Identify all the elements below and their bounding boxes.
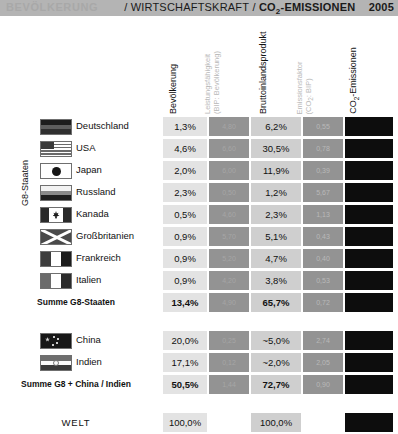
cell-performance: 0,25 <box>209 331 249 350</box>
cell-factor: 0,39 <box>303 161 343 180</box>
title-wirtschaftskraft: WIRTSCHAFTSKRAFT <box>131 1 250 13</box>
cell-gdp: 65,7% <box>251 293 301 312</box>
country-name: Deutschland <box>76 120 129 131</box>
cell-performance: 5,20 <box>209 249 249 268</box>
country-name: Russland <box>76 186 116 197</box>
cell-population: 4,6% <box>163 139 207 158</box>
cell-gdp: 30,5% <box>251 139 301 158</box>
cell-emissions <box>345 353 393 372</box>
flag-icon-deutschland <box>40 119 72 135</box>
flag-icon-china <box>40 333 72 349</box>
table-row[interactable]: China 20,0% 0,25 ~5,0% 2,74 <box>0 330 398 352</box>
country-name: Großbritanien <box>76 230 134 241</box>
table-row-summary-g8[interactable]: Summe G8-Staaten 13,4% 4,90 65,7% 0,72 <box>0 292 398 314</box>
table-row-summary-all[interactable]: Summe G8 + China / Indien 50,5% 1,44 72,… <box>0 374 398 396</box>
cell-factor: 5,67 <box>303 183 343 202</box>
cell-population: 100,0% <box>163 413 207 432</box>
page-title: / WIRTSCHAFTSKRAFT / CO2-EMISSIONEN 2005 <box>124 1 394 16</box>
cell-emissions <box>345 293 393 312</box>
header-year: 2005 <box>369 1 394 13</box>
flag-icon-russland <box>40 185 72 201</box>
cell-gdp: 6,2% <box>251 117 301 136</box>
cell-emissions <box>345 227 393 246</box>
cell-gdp: 100,0% <box>251 413 301 432</box>
cell-performance: 5,70 <box>209 227 249 246</box>
cell-population: 2,3% <box>163 183 207 202</box>
column-header-emissions: CO2-Emissionen <box>362 24 376 114</box>
data-table: Deutschland 1,3% 4,80 6,2% 0,55 USA 4,6%… <box>0 116 398 434</box>
country-name: Italien <box>76 274 101 285</box>
table-row[interactable]: Frankreich 0,9% 5,20 4,7% 0,40 <box>0 248 398 270</box>
flag-icon-indien <box>40 355 72 371</box>
cell-factor: 2,74 <box>303 331 343 350</box>
cell-emissions <box>345 375 393 394</box>
cell-gdp: 11,9% <box>251 161 301 180</box>
cell-gdp: 3,8% <box>251 271 301 290</box>
column-header-population: Bevölkerung <box>178 24 192 114</box>
cell-emissions <box>345 117 393 136</box>
column-header-factor-label: Emissionsfaktor(CO2: BIP) <box>295 61 316 114</box>
cell-factor: 0,55 <box>303 117 343 136</box>
cell-gdp: ~2,0% <box>251 353 301 372</box>
column-header-factor: Emissionsfaktor(CO2: BIP) <box>315 24 329 114</box>
flag-icon-italien <box>40 273 72 289</box>
flag-icon-kanada <box>40 207 72 223</box>
cell-population: 0,9% <box>163 249 207 268</box>
cell-population: 17,1% <box>163 353 207 372</box>
country-name: Indien <box>76 356 102 367</box>
cell-performance: 0,12 <box>209 353 249 372</box>
row-spacer <box>0 396 398 412</box>
cell-factor: 0,40 <box>303 249 343 268</box>
cell-population: 20,0% <box>163 331 207 350</box>
cell-gdp: 2,3% <box>251 205 301 224</box>
cell-performance: 4,60 <box>209 205 249 224</box>
cell-gdp: 1,2% <box>251 183 301 202</box>
country-name: Kanada <box>76 208 109 219</box>
cell-factor: 0,72 <box>303 293 343 312</box>
table-row[interactable]: Russland 2,3% 0,50 1,2% 5,67 <box>0 182 398 204</box>
cell-factor: 0,78 <box>303 139 343 158</box>
table-row[interactable]: Italien 0,9% 4,20 3,8% 0,53 <box>0 270 398 292</box>
country-name: Frankreich <box>76 252 121 263</box>
cell-gdp: 5,1% <box>251 227 301 246</box>
cell-emissions <box>345 271 393 290</box>
cell-factor: 0,53 <box>303 271 343 290</box>
flag-icon-japan <box>40 163 72 179</box>
summary-label-g8: Summe G8-Staaten <box>0 297 152 307</box>
cell-population: 13,4% <box>163 293 207 312</box>
table-row[interactable]: Großbritanien 0,9% 5,70 5,1% 0,43 <box>0 226 398 248</box>
column-header-emissions-label: CO2-Emissionen <box>348 47 362 114</box>
country-name: USA <box>76 142 96 153</box>
header-faded-title: BEVÖLKERUNG <box>6 1 98 13</box>
cell-performance: 6,60 <box>209 139 249 158</box>
cell-performance: 4,20 <box>209 271 249 290</box>
cell-emissions <box>345 161 393 180</box>
title-co2: CO2-EMISSIONEN <box>259 1 356 13</box>
flag-icon-usa <box>40 141 72 157</box>
table-row[interactable]: USA 4,6% 6,60 30,5% 0,78 <box>0 138 398 160</box>
title-separator-1: / <box>124 1 127 13</box>
cell-performance: 6,00 <box>209 161 249 180</box>
cell-emissions <box>345 331 393 350</box>
cell-factor: 2,05 <box>303 353 343 372</box>
cell-performance: 0,50 <box>209 183 249 202</box>
table-row-world[interactable]: WELT 100,0% 100,0% <box>0 412 398 434</box>
cell-emissions <box>345 249 393 268</box>
cell-population: 0,5% <box>163 205 207 224</box>
table-row[interactable]: Indien 17,1% 0,12 ~2,0% 2,05 <box>0 352 398 374</box>
table-row[interactable]: Japan 2,0% 6,00 11,9% 0,39 <box>0 160 398 182</box>
cell-population: 50,5% <box>163 375 207 394</box>
row-spacer <box>0 314 398 330</box>
cell-population: 0,9% <box>163 271 207 290</box>
summary-label-all: Summe G8 + China / Indien <box>0 379 152 389</box>
flag-icon-grossbritanien <box>40 229 72 245</box>
cell-emissions <box>345 205 393 224</box>
cell-population: 2,0% <box>163 161 207 180</box>
table-row[interactable]: Kanada 0,5% 4,60 2,3% 1,13 <box>0 204 398 226</box>
cell-gdp: ~5,0% <box>251 331 301 350</box>
cell-emissions <box>345 183 393 202</box>
cell-performance: 4,90 <box>209 293 249 312</box>
title-separator-2: / <box>252 1 255 13</box>
table-row[interactable]: Deutschland 1,3% 4,80 6,2% 0,55 <box>0 116 398 138</box>
cell-factor: 1,13 <box>303 205 343 224</box>
